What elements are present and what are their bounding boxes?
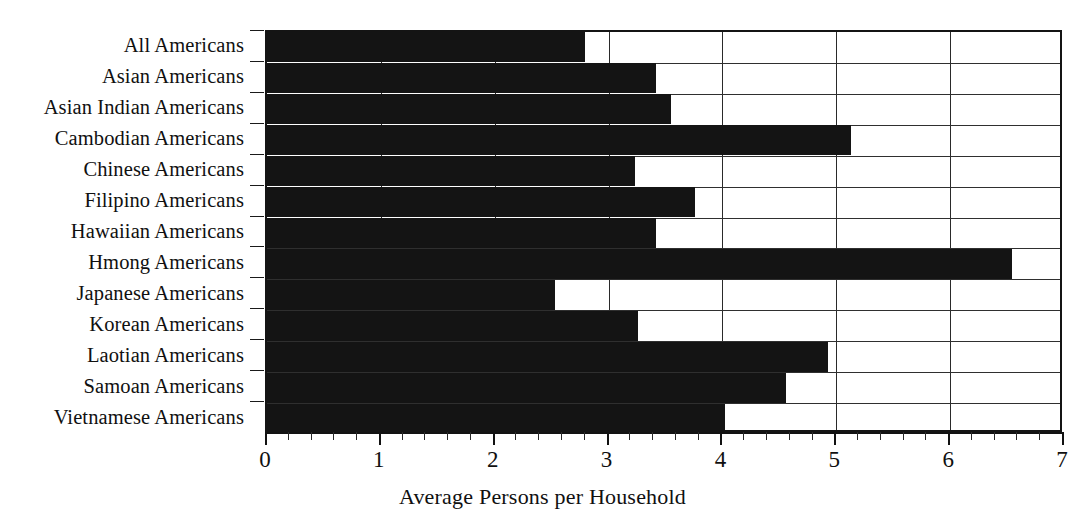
x-axis-title: Average Persons per Household [0,484,1085,510]
x-tick-minor [538,432,539,440]
category-label: Japanese Americans [77,283,244,304]
category-label: Cambodian Americans [55,128,244,149]
category-tick [250,401,264,402]
x-tick-minor [447,432,448,440]
plot-area [265,30,1062,432]
x-tick-minor [994,432,995,440]
bar [267,218,656,248]
x-tick-major [265,432,267,445]
x-tick-minor [515,432,516,440]
x-tick-minor [629,432,630,440]
category-tick [250,30,264,31]
x-tick-label: 7 [1056,448,1068,471]
bar [267,187,695,217]
category-label: Vietnamese Americans [54,407,244,428]
x-tick-label: 5 [829,448,841,471]
category-label: Asian Indian Americans [44,97,244,118]
bar [267,32,585,62]
category-tick [250,123,264,124]
x-tick-label: 4 [715,448,727,471]
x-tick-minor [698,432,699,440]
x-tick-minor [903,432,904,440]
category-label: Filipino Americans [84,190,244,211]
x-tick-minor [766,432,767,440]
x-tick-label: 0 [259,448,271,471]
x-tick-label: 1 [373,448,385,471]
bar [267,404,725,434]
category-label: Samoan Americans [84,376,244,397]
x-tick-major [1062,432,1064,445]
category-tick [250,92,264,93]
x-tick-major [493,432,495,445]
x-tick-minor [1039,432,1040,440]
x-tick-minor [288,432,289,440]
chart-title [0,0,1085,12]
bar [267,125,851,155]
x-tick-minor [356,432,357,440]
x-tick-major [720,432,722,445]
category-label: Hawaiian Americans [71,221,244,242]
category-label: Hmong Americans [88,252,244,273]
x-tick-label: 3 [601,448,613,471]
x-tick-minor [652,432,653,440]
bar [267,342,828,372]
bar-chart: All AmericansAsian AmericansAsian Indian… [0,0,1085,531]
x-tick-minor [880,432,881,440]
x-tick-minor [971,432,972,440]
x-axis-line [265,432,1062,434]
x-tick-minor [675,432,676,440]
x-tick-major [948,432,950,445]
x-tick-minor [424,432,425,440]
x-tick-minor [402,432,403,440]
x-tick-minor [470,432,471,440]
bar [267,156,635,186]
bar [267,311,638,341]
category-tick [250,370,264,371]
x-tick-minor [925,432,926,440]
category-tick [250,277,264,278]
x-tick-label: 2 [487,448,499,471]
category-label: Korean Americans [89,314,244,335]
x-tick-major [607,432,609,445]
category-tick [250,185,264,186]
gridline-vertical [950,32,951,430]
category-axis: All AmericansAsian AmericansAsian Indian… [0,30,252,432]
bar [267,373,786,403]
category-label: Laotian Americans [87,345,244,366]
category-tick [250,339,264,340]
bar [267,280,555,310]
category-tick [250,308,264,309]
category-tick [250,216,264,217]
x-tick-minor [311,432,312,440]
x-tick-minor [789,432,790,440]
category-label: All Americans [124,35,244,56]
category-tick [250,154,264,155]
x-tick-major [379,432,381,445]
bar [267,249,1012,279]
x-tick-label: 6 [942,448,954,471]
x-tick-major [834,432,836,445]
bar [267,94,671,124]
x-tick-minor [333,432,334,440]
x-tick-minor [584,432,585,440]
x-tick-minor [812,432,813,440]
x-tick-minor [1016,432,1017,440]
x-tick-minor [857,432,858,440]
x-tick-minor [561,432,562,440]
category-tick [250,61,264,62]
category-label: Asian Americans [102,66,244,87]
bar [267,63,656,93]
x-tick-minor [743,432,744,440]
category-label: Chinese Americans [83,159,244,180]
gridline-vertical [836,32,837,430]
category-tick [250,246,264,247]
